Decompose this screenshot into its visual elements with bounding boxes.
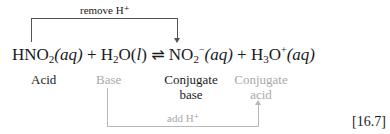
add-h-label: add H⁺ <box>167 112 199 125</box>
product-h3o: H3O+(aq) <box>251 45 315 64</box>
bottom-arrow-bar <box>107 126 259 127</box>
chemical-equation: HNO2(aq) + H2O(l) ⇌ NO2−(aq) + H3O+(aq) <box>12 44 315 65</box>
label-conjugate-acid: Conjugate acid <box>231 72 291 102</box>
equation-number: [16.7] <box>352 114 386 130</box>
top-arrow-head-icon <box>174 38 180 43</box>
equilibrium-arrow-icon: ⇌ <box>151 45 164 64</box>
top-arrow-right-leg <box>177 18 178 40</box>
product-no2: NO2−(aq) <box>169 45 233 64</box>
top-arrow-left-leg <box>31 18 32 42</box>
bottom-arrow-right-leg <box>258 104 259 127</box>
plus-sign: + <box>87 45 97 64</box>
plus-sign: + <box>237 45 247 64</box>
bottom-arrow-head-icon <box>255 100 261 105</box>
label-base: Base <box>96 72 121 87</box>
bottom-arrow-left-leg <box>107 88 108 126</box>
reactant-hno2: HNO2(aq) <box>12 45 83 64</box>
top-arrow-bar <box>31 18 178 19</box>
reactant-h2o: H2O(l) <box>101 45 147 64</box>
label-acid: Acid <box>31 72 56 87</box>
label-conjugate-base: Conjugate base <box>161 72 221 102</box>
remove-h-label: remove H⁺ <box>80 4 129 17</box>
